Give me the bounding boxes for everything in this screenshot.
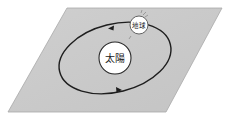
earth-label: 地球 bbox=[132, 21, 146, 30]
sun-earth-orbit-diagram: 太陽 地球 bbox=[0, 0, 234, 120]
sun-label: 太陽 bbox=[105, 52, 125, 64]
sun: 太陽 bbox=[99, 42, 131, 74]
